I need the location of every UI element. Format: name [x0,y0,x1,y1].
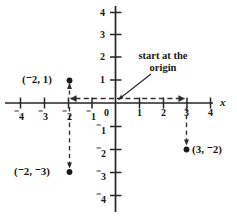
origin-annotation-line1: start at the [123,50,203,62]
point-marker-c [184,147,190,153]
coordinate-plane-figure: ⁻4 ⁻3 ⁻2 ⁻1 0 1 2 3 4 4 3 2 1 ⁻1 ⁻2 ⁻3 ⁻… [0,0,237,218]
y-tick-label-neg-2: ⁻2 [96,145,106,159]
y-tick-label-3: 3 [100,30,105,40]
point-label-a: (⁻2, 1) [22,74,52,85]
point-label-c: (3, ⁻2) [192,144,222,155]
point-label-b: (⁻2, ⁻3) [14,166,50,177]
coordinate-plane-svg [0,0,237,218]
point-marker-a [67,78,73,84]
y-tick-label-neg-3: ⁻3 [96,168,106,182]
x-tick-label-neg-3: ⁻3 [38,108,48,122]
y-tick-label-4: 4 [100,8,105,18]
annotation-leader-arrow [119,74,152,100]
x-tick-label-1: 1 [137,108,142,118]
x-tick-label-neg-4: ⁻4 [14,108,24,122]
y-tick-label-neg-4: ⁻4 [96,191,106,205]
origin-annotation-line2: origin [123,62,203,74]
y-tick-label-neg-1: ⁻1 [96,122,106,136]
x-tick-label-neg-2: ⁻2 [62,108,72,122]
origin-zero-label: 0 [104,108,109,118]
y-tick-label-1: 1 [100,75,105,85]
x-tick-label-3: 3 [184,108,189,118]
x-tick-label-4: 4 [208,108,213,118]
origin-annotation: start at the origin [123,50,203,75]
x-tick-label-2: 2 [161,108,166,118]
x-tick-label-neg-1: ⁻1 [86,108,96,122]
point-marker-b [67,169,73,175]
y-tick-label-2: 2 [100,52,105,62]
x-axis-name-label: x [220,97,226,108]
